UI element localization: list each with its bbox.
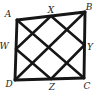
figure-container: ABCDXYZW <box>0 0 95 91</box>
vertex-label-D: D <box>4 79 12 89</box>
vertex-label-Z: Z <box>48 82 56 92</box>
vertex-label-W: W <box>0 41 9 51</box>
vertex-label-X: X <box>47 5 55 15</box>
vertex-label-Y: Y <box>87 42 94 52</box>
vertex-label-B: B <box>85 2 93 12</box>
vertex-label-A: A <box>4 9 12 19</box>
quadrilateral-midpoints-diagram: ABCDXYZW <box>0 0 95 91</box>
vertex-label-C: C <box>84 81 91 91</box>
